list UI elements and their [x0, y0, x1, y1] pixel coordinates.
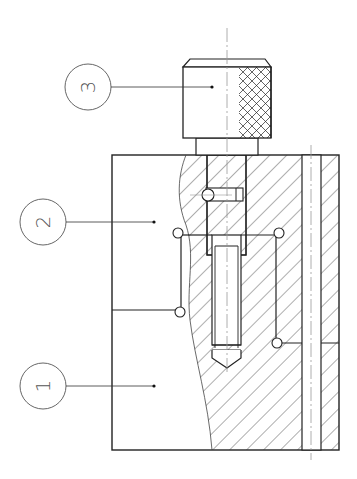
callout-2: 2: [20, 199, 156, 245]
callout-1: 1: [20, 363, 156, 409]
callout-3-label: 3: [76, 81, 100, 94]
callout-1-label: 1: [31, 380, 55, 393]
callout-2-label: 2: [31, 216, 55, 229]
right-channel: [302, 145, 321, 460]
assembly-section-drawing: 3 2 1: [0, 0, 357, 479]
